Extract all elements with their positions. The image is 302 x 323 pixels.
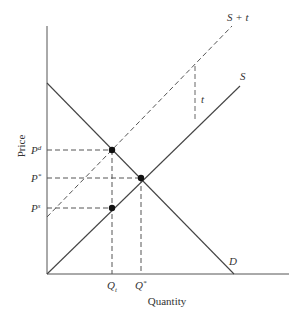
x-axis-title: Quantity <box>148 295 187 307</box>
y-axis-title: Price <box>15 135 27 158</box>
pd-label: Pd <box>30 144 42 156</box>
equilibrium-point <box>138 175 144 181</box>
supply-plus-tax-label: S + t <box>227 11 249 23</box>
buyer-price-point <box>109 147 115 153</box>
supply-curve <box>47 86 240 274</box>
qstar-label: Q* <box>135 279 147 291</box>
pstar-label: P* <box>30 172 42 184</box>
tax-incidence-diagram: S + t S t D Pd P* Ps Qt Q* Price Quantit… <box>0 0 302 323</box>
qt-label: Qt <box>107 279 118 294</box>
supply-label: S <box>240 70 246 82</box>
tax-label: t <box>201 93 205 105</box>
demand-label: D <box>228 255 237 267</box>
seller-price-point <box>109 205 115 211</box>
ps-label: Ps <box>30 202 41 214</box>
